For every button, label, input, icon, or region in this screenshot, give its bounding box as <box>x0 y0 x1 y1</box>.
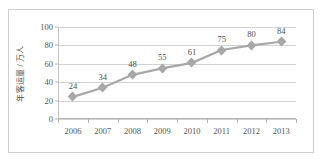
chart-figure: 年客运量 / 万人 020406080100 20062007200820092… <box>0 0 322 165</box>
x-tick-label: 2008 <box>124 127 141 136</box>
data-point-label: 24 <box>69 81 78 90</box>
series-line <box>58 27 296 119</box>
y-tick-label: 20 <box>45 96 54 105</box>
x-tick-mark <box>207 119 208 123</box>
data-point-label: 34 <box>98 72 107 81</box>
x-tick-label: 2007 <box>94 127 111 136</box>
x-tick-label: 2012 <box>243 127 260 136</box>
y-axis-title: 年客运量 / 万人 <box>12 27 26 119</box>
y-tick-label: 60 <box>45 60 54 69</box>
data-point-label: 75 <box>217 35 226 44</box>
data-point-label: 48 <box>128 59 137 68</box>
x-tick-mark <box>237 119 238 123</box>
y-tick-label: 80 <box>45 41 54 50</box>
x-tick-mark <box>147 119 148 123</box>
x-tick-label: 2006 <box>64 127 81 136</box>
y-tick-label: 0 <box>49 115 53 124</box>
plot-area: 020406080100 200620072008200920102011201… <box>58 27 296 119</box>
data-point-label: 84 <box>277 26 286 35</box>
x-tick-label: 2013 <box>273 127 290 136</box>
x-tick-label: 2010 <box>183 127 200 136</box>
x-tick-mark <box>118 119 119 123</box>
y-tick-label: 100 <box>40 23 53 32</box>
x-tick-mark <box>58 119 59 123</box>
data-point-label: 80 <box>247 30 256 39</box>
y-axis-title-text: 年客运量 / 万人 <box>14 45 25 101</box>
x-tick-label: 2009 <box>154 127 171 136</box>
x-tick-mark <box>266 119 267 123</box>
x-tick-label: 2011 <box>213 127 230 136</box>
x-tick-mark <box>296 119 297 123</box>
y-tick-label: 40 <box>45 78 54 87</box>
data-point-label: 61 <box>188 47 197 56</box>
x-tick-mark <box>88 119 89 123</box>
data-point-label: 55 <box>158 53 167 62</box>
x-tick-mark <box>177 119 178 123</box>
